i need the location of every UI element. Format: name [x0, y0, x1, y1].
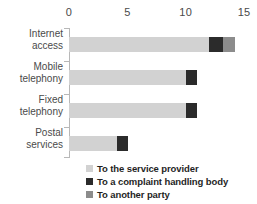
x-axis-tick-label: 5 [124, 6, 130, 18]
bar-row [0, 70, 257, 85]
chart-legend: To the service providerTo a complaint ha… [0, 162, 257, 201]
bar-segment-provider [69, 136, 117, 151]
bar-row [0, 136, 257, 151]
plot-area: Internet accessMobile telephonyFixed tel… [0, 28, 257, 160]
bar-segment-complaint [117, 136, 129, 151]
y-axis-tick [64, 127, 70, 128]
stacked-bar-chart: 051015 Internet accessMobile telephonyFi… [0, 0, 257, 204]
y-axis-tick [64, 28, 70, 29]
legend-label: To the service provider [97, 163, 199, 174]
x-axis-tick-labels: 051015 [0, 6, 257, 24]
y-axis-tick [64, 157, 70, 158]
bar-segment-complaint [186, 70, 197, 85]
bar-segment-complaint [186, 103, 198, 118]
y-axis-tick [64, 94, 70, 95]
y-axis-tick [64, 61, 70, 62]
legend-item[interactable]: To a complaint handling body [0, 175, 257, 188]
x-axis-tick-label: 15 [238, 6, 251, 18]
legend-swatch-other [86, 191, 93, 198]
legend-swatch-provider [86, 165, 93, 172]
bar-row [0, 37, 257, 52]
bar-segment-provider [69, 70, 186, 85]
x-axis-tick-label: 10 [179, 6, 192, 18]
bar-segment-provider [69, 37, 209, 52]
legend-item[interactable]: To another party [0, 188, 257, 201]
legend-item[interactable]: To the service provider [0, 162, 257, 175]
bar-segment-provider [69, 103, 186, 118]
bar-segment-complaint [209, 37, 223, 52]
legend-label: To another party [97, 189, 170, 200]
legend-label: To a complaint handling body [97, 176, 228, 187]
bar-segment-other [223, 37, 235, 52]
legend-swatch-complaint [86, 178, 93, 185]
x-axis-tick-label: 0 [66, 6, 72, 18]
bar-row [0, 103, 257, 118]
